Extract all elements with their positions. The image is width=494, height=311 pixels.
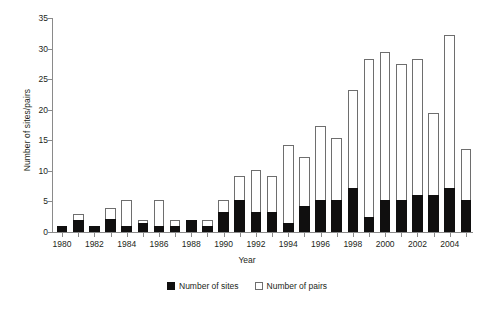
bar-segment-sites xyxy=(267,212,278,232)
bar-segment-sites xyxy=(348,188,359,232)
bar-group xyxy=(283,18,294,232)
bar-group xyxy=(444,18,455,232)
bar-group xyxy=(267,18,278,232)
x-tick-mark xyxy=(450,233,451,237)
bar-group xyxy=(331,18,342,232)
bar-segment-sites xyxy=(89,226,100,232)
chart-legend: Number of sitesNumber of pairs xyxy=(0,281,494,291)
bar-segment-sites xyxy=(186,220,197,232)
bar-segment-sites xyxy=(331,200,342,232)
bar-segment-sites xyxy=(315,200,326,232)
legend-swatch-pairs-icon xyxy=(255,282,263,290)
x-tick-label: 1992 xyxy=(246,239,265,249)
x-tick-mark xyxy=(417,233,418,237)
x-tick-label: 2004 xyxy=(440,239,459,249)
x-tick-mark xyxy=(321,233,322,237)
x-tick-mark xyxy=(466,233,467,237)
y-tick-label: 25 xyxy=(39,75,48,84)
x-tick-mark xyxy=(127,233,128,237)
bar-segment-sites xyxy=(121,226,132,232)
bar-segment-sites xyxy=(412,195,423,232)
bar-group xyxy=(73,18,84,232)
bar-chart-figure: Number of sites/pairs 05101520253035 198… xyxy=(0,0,494,311)
bar-group xyxy=(428,18,439,232)
bar-group xyxy=(412,18,423,232)
x-tick-mark xyxy=(256,233,257,237)
x-tick-mark xyxy=(434,233,435,237)
bar-segment-sites xyxy=(202,226,213,232)
bar-segment-sites xyxy=(396,200,407,232)
x-tick-mark xyxy=(175,233,176,237)
x-tick-label: 2002 xyxy=(408,239,427,249)
bar-group xyxy=(299,18,310,232)
x-tick-mark xyxy=(337,233,338,237)
bar-group xyxy=(315,18,326,232)
plot-area: 05101520253035 xyxy=(52,18,472,232)
x-tick-label: 1986 xyxy=(150,239,169,249)
bar-segment-sites xyxy=(251,212,262,232)
bar-group xyxy=(234,18,245,232)
bar-group xyxy=(251,18,262,232)
x-tick-mark xyxy=(224,233,225,237)
x-tick-mark xyxy=(159,233,160,237)
x-tick-mark xyxy=(304,233,305,237)
x-tick-mark xyxy=(369,233,370,237)
y-tick-label: 15 xyxy=(39,136,48,145)
x-tick-mark xyxy=(207,233,208,237)
y-tick-label: 20 xyxy=(39,105,48,114)
bar-group xyxy=(138,18,149,232)
bar-segment-sites xyxy=(283,223,294,232)
y-tick-label: 10 xyxy=(39,167,48,176)
x-tick-mark xyxy=(272,233,273,237)
bar-group xyxy=(348,18,359,232)
x-tick-mark xyxy=(143,233,144,237)
bar-group xyxy=(218,18,229,232)
bar-group xyxy=(186,18,197,232)
x-tick-mark xyxy=(353,233,354,237)
x-tick-mark xyxy=(288,233,289,237)
bar-group xyxy=(89,18,100,232)
bar-segment-sites xyxy=(138,223,149,232)
bar-group xyxy=(154,18,165,232)
bar-segment-sites xyxy=(380,200,391,232)
x-tick-label: 1990 xyxy=(214,239,233,249)
y-tick-label: 35 xyxy=(39,14,48,23)
x-tick-mark xyxy=(78,233,79,237)
legend-swatch-sites-icon xyxy=(167,282,175,290)
bar-segment-sites xyxy=(218,212,229,232)
bar-segment-sites xyxy=(154,226,165,232)
x-tick-mark xyxy=(401,233,402,237)
bar-segment-sites xyxy=(461,200,472,232)
bar-segment-sites xyxy=(105,219,116,232)
bar-group xyxy=(380,18,391,232)
legend-label: Number of sites xyxy=(179,281,239,291)
bar-group xyxy=(396,18,407,232)
bar-segment-sites xyxy=(73,220,84,232)
x-tick-label: 1996 xyxy=(311,239,330,249)
x-tick-mark xyxy=(385,233,386,237)
bar-segment-pairs xyxy=(364,59,375,232)
bar-group xyxy=(461,18,472,232)
legend-item: Number of pairs xyxy=(255,281,327,291)
x-tick-label: 2000 xyxy=(376,239,395,249)
bar-segment-sites xyxy=(234,200,245,232)
x-axis-title: Year xyxy=(0,255,494,265)
x-tick-label: 1982 xyxy=(85,239,104,249)
bar-segment-pairs xyxy=(283,145,294,232)
x-tick-label: 1980 xyxy=(53,239,72,249)
bar-group xyxy=(170,18,181,232)
bar-segment-sites xyxy=(299,206,310,232)
y-tick-label: 30 xyxy=(39,44,48,53)
x-tick-mark xyxy=(240,233,241,237)
bar-group xyxy=(121,18,132,232)
x-tick-mark xyxy=(191,233,192,237)
x-tick-label: 1998 xyxy=(343,239,362,249)
x-tick-mark xyxy=(94,233,95,237)
bar-group xyxy=(57,18,68,232)
bar-series-container xyxy=(52,18,472,232)
bar-group xyxy=(364,18,375,232)
bar-group xyxy=(202,18,213,232)
bar-segment-sites xyxy=(170,226,181,232)
bar-segment-sites xyxy=(428,195,439,232)
bar-group xyxy=(105,18,116,232)
